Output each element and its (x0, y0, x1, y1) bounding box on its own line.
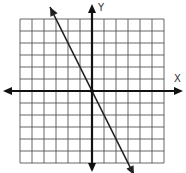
y-axis-arrow-down (88, 163, 96, 172)
x-axis-label: X (174, 73, 181, 84)
y-axis-label: Y (97, 2, 105, 13)
origin-point (90, 89, 94, 93)
x-axis-arrow-right (174, 87, 183, 95)
y-axis-arrow-up (88, 4, 96, 13)
x-axis-arrow-left (3, 87, 12, 95)
axes (3, 4, 183, 172)
coordinate-plane: X Y (0, 0, 186, 173)
